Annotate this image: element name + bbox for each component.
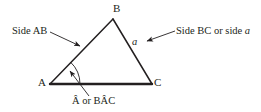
triangle-diagram-canvas (0, 0, 261, 112)
callout-side-bc-variable: a (245, 25, 250, 36)
callout-side-bc: Side BC or side a (176, 26, 250, 37)
callout-side-ab: Side AB (12, 26, 47, 37)
triangle-side-bc (113, 19, 152, 84)
vertex-label-b: B (113, 3, 120, 14)
callout-side-bc-prefix: Side BC or side (176, 25, 245, 36)
leader-arrow-side-bc (147, 31, 175, 41)
triangle-figure: B A C Side AB Side BC or side a a Â or B… (0, 0, 261, 112)
vertex-label-c: C (154, 77, 161, 88)
leader-arrow-side-ab (50, 32, 80, 46)
triangle-side-ab (50, 19, 113, 84)
vertex-label-a: A (38, 77, 46, 88)
callout-angle-a: Â or BÂC (72, 96, 115, 107)
side-variable-marker-a: a (132, 37, 137, 48)
